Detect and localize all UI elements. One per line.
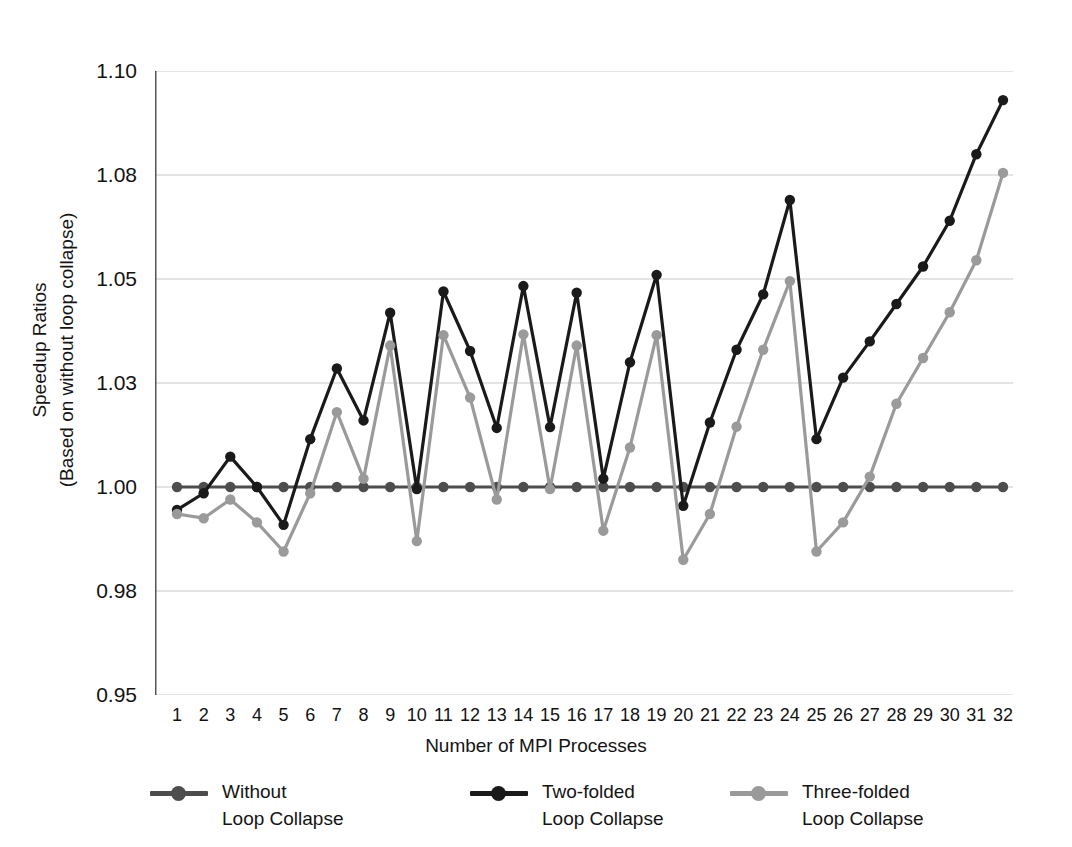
data-point: [571, 340, 581, 350]
data-point: [998, 168, 1008, 178]
data-point: [545, 422, 555, 432]
data-point: [758, 482, 768, 492]
data-point: [438, 482, 448, 492]
data-point: [865, 336, 875, 346]
data-point: [785, 276, 795, 286]
data-point: [785, 482, 795, 492]
data-point: [412, 536, 422, 546]
data-point: [918, 261, 928, 271]
plot-area: [155, 71, 1013, 695]
data-point: [625, 442, 635, 452]
data-point: [332, 363, 342, 373]
y-tick-label: 0.98: [59, 579, 137, 603]
data-point: [518, 281, 528, 291]
data-point: [278, 520, 288, 530]
data-point: [465, 392, 475, 402]
legend-marker-icon: [730, 782, 788, 804]
plot-svg: [155, 71, 1013, 695]
y-tick-label: 1.08: [59, 163, 137, 187]
data-point: [332, 482, 342, 492]
data-point: [651, 270, 661, 280]
data-point: [758, 289, 768, 299]
data-point: [225, 482, 235, 492]
data-point: [865, 471, 875, 481]
legend-label: Two-folded Loop Collapse: [528, 778, 663, 832]
data-point: [678, 501, 688, 511]
data-point: [731, 482, 741, 492]
legend-dot: [751, 786, 766, 801]
data-point: [492, 423, 502, 433]
data-point: [571, 288, 581, 298]
data-point: [705, 417, 715, 427]
data-point: [998, 482, 1008, 492]
data-point: [438, 330, 448, 340]
data-point: [198, 488, 208, 498]
data-point: [225, 494, 235, 504]
legend-item-3[interactable]: Three-folded Loop Collapse: [730, 778, 923, 832]
data-point: [225, 451, 235, 461]
data-point: [731, 345, 741, 355]
data-point: [598, 473, 608, 483]
data-point: [358, 415, 368, 425]
data-point: [838, 482, 848, 492]
data-point: [278, 546, 288, 556]
data-point: [518, 482, 528, 492]
data-point: [918, 353, 928, 363]
data-point: [838, 372, 848, 382]
series-line: [177, 173, 1003, 560]
data-point: [385, 482, 395, 492]
data-point: [945, 216, 955, 226]
y-axis-title-line1: Speedup Ratios: [26, 213, 53, 488]
data-point: [811, 482, 821, 492]
data-point: [891, 299, 901, 309]
data-point: [305, 488, 315, 498]
data-point: [705, 509, 715, 519]
legend-dot: [491, 786, 506, 801]
data-point: [492, 494, 502, 504]
data-point: [945, 482, 955, 492]
data-point: [758, 345, 768, 355]
legend-label: Without Loop Collapse: [208, 778, 343, 832]
data-point: [705, 482, 715, 492]
data-point: [465, 482, 475, 492]
series-3: [172, 168, 1008, 565]
series-line: [177, 100, 1003, 525]
data-point: [971, 482, 981, 492]
data-point: [891, 399, 901, 409]
data-point: [785, 195, 795, 205]
legend-item-1[interactable]: Without Loop Collapse: [150, 778, 343, 832]
data-point: [971, 255, 981, 265]
data-point: [252, 482, 262, 492]
data-point: [172, 509, 182, 519]
legend-item-2[interactable]: Two-folded Loop Collapse: [470, 778, 663, 832]
data-point: [358, 473, 368, 483]
legend-marker-icon: [470, 782, 528, 804]
y-tick-label: 1.10: [59, 59, 137, 83]
data-point: [571, 482, 581, 492]
data-point: [625, 357, 635, 367]
data-point: [252, 517, 262, 527]
legend-dot: [171, 786, 186, 801]
data-point: [971, 149, 981, 159]
y-tick-label: 0.95: [59, 683, 137, 707]
data-point: [598, 525, 608, 535]
data-point: [278, 482, 288, 492]
data-point: [678, 555, 688, 565]
data-point: [811, 434, 821, 444]
data-point: [545, 484, 555, 494]
data-point: [651, 482, 661, 492]
data-point: [438, 286, 448, 296]
x-tick-label: 32: [983, 705, 1023, 726]
data-point: [198, 513, 208, 523]
data-point: [412, 484, 422, 494]
data-point: [891, 482, 901, 492]
data-point: [518, 329, 528, 339]
y-tick-label: 1.05: [59, 267, 137, 291]
chart-legend: Without Loop CollapseTwo-folded Loop Col…: [0, 778, 1072, 844]
data-point: [838, 517, 848, 527]
data-point: [918, 482, 928, 492]
x-axis-title: Number of MPI Processes: [0, 735, 1072, 757]
data-point: [332, 407, 342, 417]
data-point: [625, 482, 635, 492]
y-axis-title-line2: (Based on without loop collapse): [53, 213, 80, 488]
